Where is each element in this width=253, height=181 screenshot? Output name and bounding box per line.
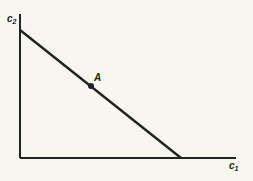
point-a-label: A bbox=[93, 72, 101, 83]
point-a-marker bbox=[88, 83, 94, 89]
y-axis-label: c2 bbox=[7, 13, 17, 25]
budget-line bbox=[20, 30, 181, 158]
budget-line-diagram: A c2 c1 bbox=[0, 0, 253, 181]
x-axis-label: c1 bbox=[229, 160, 239, 172]
